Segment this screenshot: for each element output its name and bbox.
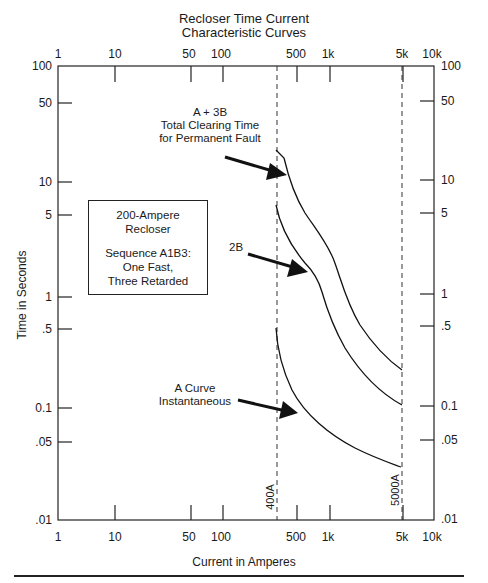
left-tick-label: .01 [12, 513, 52, 527]
bottom-tick-label: 10 [108, 530, 121, 544]
right-tick-label: 0.1 [441, 399, 458, 413]
left-tick-label: .05 [12, 435, 52, 449]
left-tick-label: 10 [12, 175, 52, 189]
top-tick-label: 50 [182, 47, 195, 61]
left-tick-label: 5 [12, 208, 52, 222]
bottom-tick-label: 5k [396, 530, 409, 544]
annotation-line: A + 3B [135, 106, 285, 119]
ref-label-5000a: 5000A [389, 473, 401, 507]
top-tick-label: 10k [422, 47, 441, 61]
plot-area [0, 0, 488, 583]
legend-line: One Fast, [89, 260, 207, 274]
right-tick-label: 50 [441, 94, 454, 108]
top-tick-label: 500 [286, 47, 306, 61]
right-tick-label: 100 [441, 59, 461, 73]
right-tick-label: .05 [441, 433, 458, 447]
top-tick-label: 5k [396, 47, 409, 61]
top-ticks [115, 66, 403, 82]
legend-line: 200-Ampere [89, 208, 207, 222]
legend-box: 200-Ampere Recloser Sequence A1B3: One F… [88, 200, 208, 295]
x-axis-label: Current in Amperes [0, 555, 488, 569]
top-tick-label: 1 [55, 47, 62, 61]
top-tick-label: 10 [108, 47, 121, 61]
right-tick-label: .01 [441, 512, 458, 526]
arrow-2b [248, 254, 308, 277]
top-tick-label: 1k [322, 47, 335, 61]
bottom-tick-label: 500 [286, 530, 306, 544]
annotation-line: Total Clearing Time [135, 119, 285, 132]
left-tick-label: 100 [12, 59, 52, 73]
left-tick-label: 50 [12, 96, 52, 110]
legend-line: Three Retarded [89, 274, 207, 288]
left-ticks [58, 103, 72, 442]
annotation-a-plus-3b: A + 3B Total Clearing Time for Permanent… [135, 106, 285, 145]
ref-label-400a: 400A [264, 483, 276, 511]
top-tick-label: 100 [211, 47, 231, 61]
annotation-2b: 2B [229, 241, 243, 254]
legend-line: Sequence A1B3: [89, 246, 207, 260]
annotation-line: Instantaneous [150, 395, 240, 408]
annotation-line: for Permanent Fault [135, 132, 285, 145]
bottom-tick-label: 50 [182, 530, 195, 544]
arrow-a-curve [238, 400, 298, 419]
right-tick-label: 5 [441, 206, 448, 220]
bottom-tick-label: 100 [211, 530, 231, 544]
annotation-line: A Curve [150, 382, 240, 395]
bottom-ticks [115, 505, 403, 520]
annotation-a-curve: A Curve Instantaneous [150, 382, 240, 408]
bottom-tick-label: 1 [55, 530, 62, 544]
left-tick-label: 0.1 [12, 401, 52, 415]
bottom-tick-label: 1k [322, 530, 335, 544]
curve-a-instantaneous [276, 328, 401, 467]
bottom-rule [14, 575, 464, 577]
y-axis-label: Time in Seconds [15, 251, 29, 340]
right-tick-label: .5 [441, 319, 451, 333]
curve-2b [276, 205, 402, 405]
right-ticks [420, 101, 434, 440]
right-tick-label: 1 [441, 287, 448, 301]
bottom-tick-label: 10k [422, 530, 441, 544]
legend-line: Recloser [89, 222, 207, 236]
right-tick-label: 10 [441, 173, 454, 187]
arrow-a-plus-3b [225, 157, 287, 180]
